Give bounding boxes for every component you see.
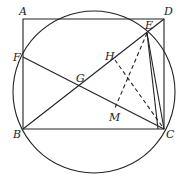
segment-ec-2 — [147, 33, 158, 129]
label-m: M — [108, 111, 121, 124]
label-h: H — [104, 50, 115, 63]
circle — [13, 11, 175, 173]
label-c: C — [166, 128, 175, 141]
label-d: D — [163, 5, 173, 18]
label-a: A — [18, 5, 27, 18]
segment-fc — [23, 57, 164, 129]
label-e: E — [144, 19, 153, 32]
label-b: B — [12, 128, 21, 141]
geometry-diagram: A D E F H G M B C — [0, 0, 186, 182]
dashed-hc — [115, 60, 164, 129]
label-g: G — [76, 72, 85, 85]
segment-be — [23, 19, 164, 129]
label-f: F — [12, 51, 21, 64]
